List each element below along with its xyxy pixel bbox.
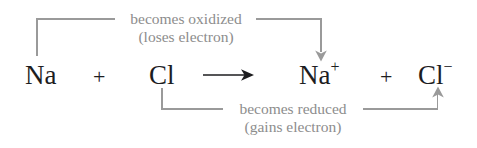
plus-sign-1: + (93, 66, 105, 88)
product-sodium-symbol: Na (299, 60, 330, 90)
oxidation-label-line-2: (loses electron) (113, 28, 259, 46)
product-chloride-charge: − (444, 58, 453, 75)
reactant-chlorine: Cl (149, 62, 175, 89)
reduction-bracket-left-leg (161, 88, 163, 109)
reduction-bracket-bottom-left-segment (161, 108, 223, 110)
reduction-label-line-2: (gains electron) (221, 118, 365, 136)
oxidation-label: becomes oxidized (loses electron) (113, 10, 259, 47)
reaction-arrow-icon (203, 66, 255, 84)
oxidation-bracket-right-leg (320, 18, 322, 52)
product-sodium-charge: + (330, 58, 339, 75)
oxidation-label-line-1: becomes oxidized (113, 10, 259, 28)
reactant-sodium: Na (25, 62, 56, 89)
oxidation-bracket-left-leg (36, 18, 38, 56)
redox-diagram: becomes oxidized (loses electron) Na + C… (0, 0, 477, 148)
reduction-up-arrow-icon (429, 86, 447, 100)
reduction-label: becomes reduced (gains electron) (221, 100, 365, 137)
product-sodium-ion: Na+ (299, 62, 340, 89)
oxidation-bracket-top-left-segment (36, 18, 115, 20)
reduction-bracket-bottom-right-segment (363, 108, 438, 110)
plus-sign-2: + (380, 66, 392, 88)
product-chloride-ion: Cl− (418, 62, 453, 89)
oxidation-bracket-top-right-segment (256, 18, 321, 20)
reduction-label-line-1: becomes reduced (221, 100, 365, 118)
